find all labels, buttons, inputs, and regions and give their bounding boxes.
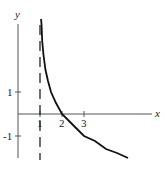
y-tick-label-1: 1 — [7, 87, 13, 98]
x-tick-label-1: 1 — [37, 118, 43, 129]
x-tick-label-2: 2 — [59, 118, 65, 129]
y-tick-label-neg1: -1 — [3, 131, 12, 142]
x-axis-label: x — [155, 108, 160, 119]
function-curve — [41, 19, 128, 158]
y-axis-label: y — [15, 9, 20, 20]
chart-plot — [0, 0, 165, 169]
x-tick-label-3: 3 — [81, 118, 87, 129]
